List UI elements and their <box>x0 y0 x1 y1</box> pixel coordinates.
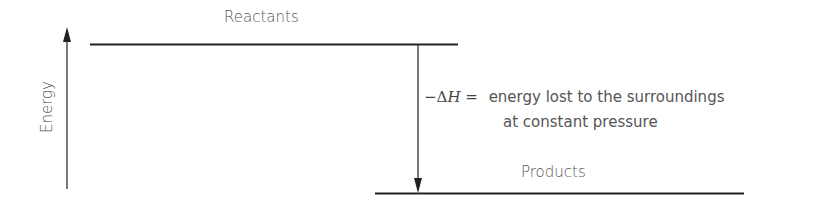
enthalpy-annotation: −ΔH = energy lost to the surroundings <box>424 88 724 106</box>
products-label: Products <box>521 163 586 181</box>
enthalpy-symbol: −ΔH = <box>424 88 478 106</box>
enthalpy-change-arrow <box>414 45 422 193</box>
energy-axis-arrow <box>63 27 71 189</box>
energy-axis-label: Energy <box>38 72 56 142</box>
enthalpy-description-line1: energy lost to the surroundings <box>489 88 725 106</box>
enthalpy-description-line2: at constant pressure <box>503 113 658 131</box>
reactants-label: Reactants <box>224 8 299 26</box>
